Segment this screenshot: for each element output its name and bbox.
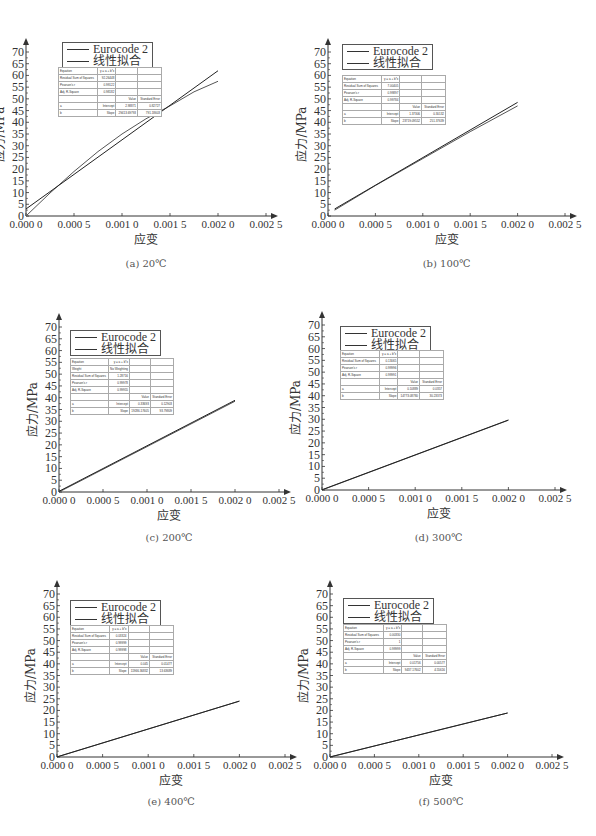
stats-row: bSlope11966.3683213.63689 [71, 668, 174, 675]
stats-row: Residual Sum of Squares0.03324 [71, 633, 174, 640]
stats-row: aIntercept2.988710.82727 [59, 103, 162, 110]
legend: Eurocode 2线性拟合 [70, 330, 161, 356]
stats-row: ValueStandard Error [343, 104, 446, 111]
legend: Eurocode 2线性拟合 [343, 598, 434, 624]
x-tick-label: 0.000 5 [87, 494, 121, 506]
legend-swatch [75, 337, 97, 338]
fit-statistics-table: Equationy = a + b*xResidual Sum of Squar… [70, 625, 174, 675]
y-axis-label: 应力/MPa [23, 648, 38, 703]
stats-row: Pearson's r0.99897 [343, 90, 446, 97]
legend-label: 线性拟合 [374, 611, 422, 623]
stats-row: ValueStandard Error [344, 653, 447, 660]
stats-row: Equationy = a + b*x [71, 359, 174, 366]
stats-row: Residual Sum of Squares0.00330 [344, 632, 447, 639]
panel-caption: (f) 500℃ [341, 796, 541, 807]
stats-row: bSlope9437.176024.55616 [344, 667, 447, 674]
y-tick-label: 70 [314, 45, 326, 59]
x-tick-label: 0.000 5 [358, 759, 392, 771]
x-tick-label: 0.001 0 [132, 759, 166, 771]
stats-row: Equationy = a + b*x [71, 626, 174, 633]
chart-panel: 05101520253035404550556065700.000 00.000… [0, 30, 290, 300]
stats-row: Adj. R-Square0.99999 [344, 646, 447, 653]
y-tick-label: 70 [308, 318, 320, 332]
x-tick-label: 0.002 0 [223, 759, 257, 771]
linear-fit-line [57, 701, 239, 757]
fit-statistics-table: Equationy = a + b*xResidual Sum of Squar… [342, 75, 446, 125]
y-axis-label: 应力/MPa [296, 648, 311, 703]
stats-row: aIntercept0.108890.0357 [341, 386, 444, 393]
stats-row: Adj. R-Square0.99784 [343, 97, 446, 104]
stats-row: aIntercept0.017560.00577 [344, 660, 447, 667]
stats-row: Pearson's r0.99978 [71, 380, 174, 387]
panel-caption: (c) 200℃ [69, 532, 269, 543]
legend-swatch [67, 61, 89, 62]
y-tick-label: 70 [316, 587, 328, 601]
y-axis-label: 应力/MPa [25, 382, 40, 437]
legend: Eurocode 2线性拟合 [342, 44, 433, 70]
legend-entry: 线性拟合 [347, 57, 428, 69]
x-tick-label: 0.002 0 [202, 218, 236, 230]
legend-swatch [67, 49, 89, 50]
x-tick-label: 0.001 0 [402, 759, 436, 771]
x-axis-label: 应变 [429, 773, 453, 788]
x-tick-label: 0.000 0 [10, 218, 44, 230]
legend-entry: 线性拟合 [67, 55, 148, 67]
stats-row: Equationy = a + b*x [343, 76, 446, 83]
stats-row: Adj. R-Square0.98182 [59, 89, 162, 96]
y-axis-arrow-icon [327, 580, 333, 587]
y-tick-label: 70 [45, 320, 57, 334]
x-axis-label: 应变 [157, 508, 181, 523]
x-tick-label: 0.002 5 [536, 759, 570, 771]
stats-row: Equationy = a + b*x [344, 625, 447, 632]
legend: Eurocode 2线性拟合 [62, 42, 153, 68]
x-axis-label: 应变 [134, 232, 158, 247]
stats-row: WeightNo Weighting [71, 366, 174, 373]
stats-row: bSlope14773.0878030.23373 [341, 393, 444, 400]
stats-row: Adj. R-Square0.99998 [71, 647, 174, 654]
stats-row: Pearson's r0.99999 [71, 640, 174, 647]
legend-label: 线性拟合 [101, 343, 149, 355]
y-axis-arrow-icon [325, 38, 331, 45]
stats-row: Residual Sum of Squares0.13065 [341, 358, 444, 365]
legend: Eurocode 2线性拟合 [340, 326, 431, 352]
stats-row: Residual Sum of Squares92.26448 [59, 75, 162, 82]
x-tick-label: 0.000 5 [86, 759, 120, 771]
y-axis-label: 应力/MPa [288, 380, 303, 435]
stats-row: Residual Sum of Squares1.28716 [71, 373, 174, 380]
y-tick-label: 70 [43, 587, 55, 601]
legend-swatch [347, 63, 369, 64]
y-axis-label: 应力/MPa [294, 106, 309, 161]
stats-row: Equationy = a + b*x [341, 351, 444, 358]
x-tick-label: 0.001 0 [106, 218, 140, 230]
stats-row: ValueStandard Error [59, 96, 162, 103]
x-tick-label: 0.000 5 [352, 492, 386, 504]
panel-caption: (a) 20℃ [46, 258, 246, 269]
stats-row: Pearson's r1 [344, 639, 447, 646]
legend-entry: 线性拟合 [75, 613, 156, 625]
legend-swatch [75, 619, 97, 620]
stats-row: Pearson's r0.99122 [59, 82, 162, 89]
stats-row: bSlope19286.1760593.79809 [71, 408, 174, 415]
panel-caption: (b) 100℃ [347, 258, 547, 269]
fit-statistics-table: Equationy = a + b*xResidual Sum of Squar… [343, 624, 447, 674]
legend-swatch [75, 349, 97, 350]
chart-panel: 05101520253035404550556065700.000 00.000… [0, 580, 290, 836]
y-axis-arrow-icon [319, 311, 325, 318]
y-tick-label: 70 [12, 45, 24, 59]
panel-caption: (e) 400℃ [71, 796, 271, 807]
x-tick-label: 0.000 0 [312, 218, 346, 230]
stats-row: ValueStandard Error [341, 379, 444, 386]
legend-swatch [348, 605, 370, 606]
stats-row: aIntercept0.336930.12903 [71, 401, 174, 408]
stats-row: bSlope29413.69793791.18603 [59, 110, 162, 117]
panel-caption: (d) 300℃ [339, 532, 539, 543]
stats-row: ValueStandard Error [71, 394, 174, 401]
x-tick-label: 0.000 0 [314, 759, 348, 771]
x-tick-label: 0.001 0 [131, 494, 165, 506]
x-tick-label: 0.002 5 [539, 492, 573, 504]
stats-row: Adj. R-Square0.99991 [341, 372, 444, 379]
x-axis-label: 应变 [427, 506, 451, 521]
legend-label: 线性拟合 [101, 613, 149, 625]
legend: Eurocode 2线性拟合 [70, 600, 161, 626]
x-tick-label: 0.001 5 [445, 492, 479, 504]
